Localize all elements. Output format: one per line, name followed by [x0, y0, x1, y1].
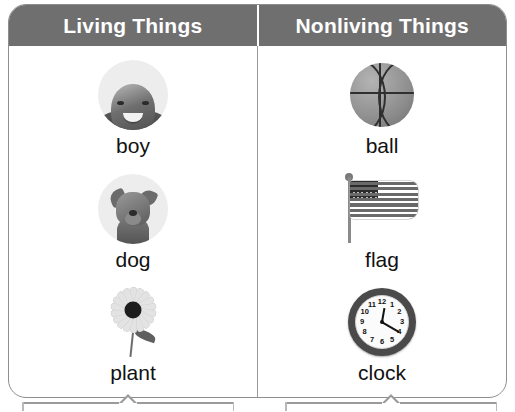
flag-stripe	[350, 214, 418, 217]
sorting-table: Living Things Nonliving Things	[8, 4, 507, 398]
item-label-ball: ball	[366, 135, 399, 156]
nonliving-things-column: ball flag	[258, 46, 506, 397]
item-label-clock: clock	[358, 362, 406, 383]
american-flag-icon	[340, 173, 424, 245]
flag-stripe	[350, 209, 418, 212]
dog-photo-icon	[98, 174, 168, 244]
clock-numeral: 6	[377, 338, 387, 346]
clock-numeral: 2	[394, 308, 404, 316]
list-item-plant: plant	[9, 283, 257, 397]
ball-art	[350, 56, 414, 134]
table-body-row: boy dog	[9, 46, 506, 397]
clock-numeral: 12	[377, 298, 387, 306]
clock-numeral: 11	[367, 301, 377, 309]
column-header-nonliving-things-label: Nonliving Things	[295, 14, 469, 38]
boy-art	[98, 56, 168, 134]
list-item-ball: ball	[258, 56, 506, 170]
flower-icon	[104, 285, 162, 359]
table-header-row: Living Things Nonliving Things	[9, 5, 506, 46]
worksheet-stage: Living Things Nonliving Things	[0, 0, 515, 412]
brace-living-things	[22, 394, 234, 410]
flag-stripe	[350, 203, 418, 206]
basketball-icon	[350, 63, 414, 127]
column-header-nonliving-things: Nonliving Things	[259, 5, 507, 46]
list-item-dog: dog	[9, 170, 257, 284]
flag-stripe	[350, 193, 418, 196]
item-label-dog: dog	[115, 249, 150, 270]
flag-stripe	[350, 187, 418, 190]
item-label-plant: plant	[110, 362, 156, 383]
brace-nonliving-things	[285, 394, 497, 410]
living-things-column: boy dog	[9, 46, 258, 397]
clock-numeral: 9	[357, 318, 367, 326]
list-item-clock: 121234567891011 clock	[258, 283, 506, 397]
item-label-boy: boy	[116, 135, 150, 156]
list-item-flag: flag	[258, 170, 506, 284]
analog-clock-icon: 121234567891011	[348, 288, 416, 356]
flag-art	[340, 170, 424, 248]
clock-art: 121234567891011	[348, 283, 416, 361]
item-label-flag: flag	[365, 249, 399, 270]
clock-numeral: 10	[360, 308, 370, 316]
flag-stripe	[350, 198, 418, 201]
boy-photo-icon	[98, 60, 168, 130]
clock-numeral: 7	[367, 336, 377, 344]
column-header-living-things: Living Things	[9, 5, 259, 46]
plant-art	[104, 283, 162, 361]
clock-numeral: 5	[387, 336, 397, 344]
clock-numeral: 3	[397, 318, 407, 326]
clock-numeral: 8	[360, 328, 370, 336]
list-item-boy: boy	[9, 56, 257, 170]
column-header-living-things-label: Living Things	[63, 14, 202, 38]
dog-art	[98, 170, 168, 248]
flag-stripe	[350, 182, 418, 185]
